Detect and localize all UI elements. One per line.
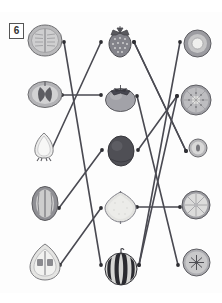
connector-endpoint-dot[interactable] — [176, 263, 180, 267]
connector-line[interactable] — [64, 42, 101, 265]
apple-cross-section-star-icon[interactable] — [182, 248, 211, 277]
connector-line[interactable] — [134, 42, 186, 151]
connector-endpoint-dot[interactable] — [99, 40, 103, 44]
persimmon-whole-icon[interactable] — [103, 82, 138, 112]
worksheet-page: 6 — [0, 0, 222, 303]
connector-line[interactable] — [139, 42, 180, 265]
connector-endpoint-dot[interactable] — [178, 40, 182, 44]
kiwi-whole-icon[interactable] — [106, 135, 136, 167]
avocado-cross-section-icon[interactable] — [27, 242, 63, 282]
strawberry-cross-section-icon[interactable] — [31, 130, 57, 162]
persimmon-cross-section-small-icon[interactable] — [188, 138, 208, 158]
lemon-cross-section-icon[interactable] — [181, 190, 211, 220]
apple-cross-section-icon[interactable] — [27, 80, 63, 109]
connector-line[interactable] — [138, 96, 177, 150]
connector-line[interactable] — [60, 208, 101, 265]
connector-endpoint-dot[interactable] — [136, 148, 140, 152]
connector-endpoint-dot[interactable] — [100, 148, 104, 152]
connector-endpoint-dot[interactable] — [175, 94, 179, 98]
strawberry-whole-icon[interactable] — [105, 24, 135, 58]
connector-endpoint-dot[interactable] — [175, 94, 179, 98]
connector-line[interactable] — [134, 42, 186, 151]
watermelon-whole-icon[interactable] — [103, 248, 139, 286]
exercise-number-box: 6 — [9, 23, 24, 39]
lemon-whole-icon[interactable] — [103, 190, 138, 225]
kiwi-cross-section-icon[interactable] — [180, 84, 212, 116]
watermelon-whole-small-icon[interactable] — [30, 185, 60, 222]
connector-line[interactable] — [139, 96, 177, 265]
connector-line[interactable] — [59, 150, 102, 208]
avocado-ring-cross-section-icon[interactable] — [183, 29, 212, 58]
page-bottom-margin — [0, 293, 222, 303]
connector-line[interactable] — [137, 96, 178, 265]
melon-cross-section-icon[interactable] — [27, 24, 63, 57]
page-top-margin — [0, 0, 222, 12]
